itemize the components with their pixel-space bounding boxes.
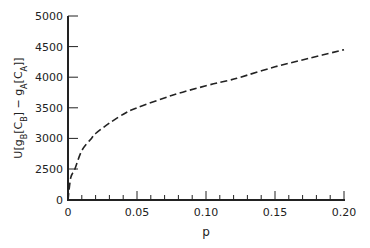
y-tick-label: 3500 bbox=[35, 102, 63, 115]
x-tick-label: 0 bbox=[65, 206, 72, 219]
x-axis-label: p bbox=[202, 225, 210, 239]
x-tick-label: 0.10 bbox=[194, 206, 219, 219]
y-tick-label: 0 bbox=[56, 194, 63, 207]
chart: 00.050.100.150.20 0250030003500400045005… bbox=[0, 0, 370, 248]
x-tick-label: 0.05 bbox=[125, 206, 150, 219]
x-tick-label: 0.20 bbox=[332, 206, 357, 219]
y-tick-label: 3000 bbox=[35, 132, 63, 145]
y-axis-label: U[gB[CB] − gA[CA]] bbox=[12, 57, 29, 158]
y-tick-label: 2500 bbox=[35, 163, 63, 176]
data-line bbox=[68, 50, 344, 200]
y-tick-label: 4500 bbox=[35, 41, 63, 54]
x-tick-label: 0.15 bbox=[263, 206, 288, 219]
axes bbox=[67, 16, 345, 201]
y-tick-label: 4000 bbox=[35, 71, 63, 84]
x-axis-ticks: 00.050.100.150.20 bbox=[65, 191, 357, 219]
y-tick-label: 5000 bbox=[35, 10, 63, 23]
